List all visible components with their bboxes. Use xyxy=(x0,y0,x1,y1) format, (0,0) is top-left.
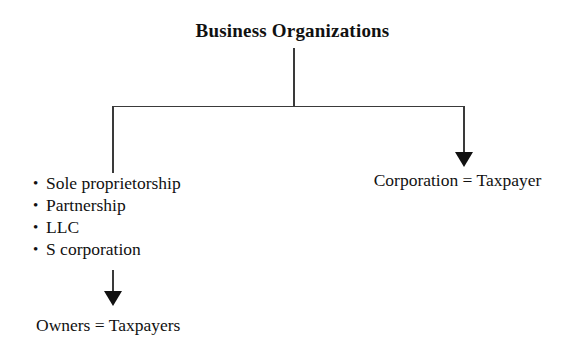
bullet-icon: • xyxy=(33,194,38,216)
list-item-label: Sole proprietorship xyxy=(46,173,181,193)
corporation-taxpayer-label: Corporation = Taxpayer xyxy=(330,170,585,191)
list-item: • LLC xyxy=(33,216,181,238)
list-item-label: LLC xyxy=(46,217,79,237)
owners-taxpayers-label: Owners = Taxpayers xyxy=(36,315,180,336)
diagram-canvas: Business Organizations • Sole proprietor… xyxy=(0,0,585,360)
diagram-title: Business Organizations xyxy=(0,20,585,42)
bullet-icon: • xyxy=(33,216,38,238)
list-item: • S corporation xyxy=(33,238,181,260)
list-item-label: Partnership xyxy=(46,195,126,215)
list-item: • Partnership xyxy=(33,194,181,216)
list-item-label: S corporation xyxy=(46,239,141,259)
owners-arrowhead xyxy=(104,291,122,306)
bullet-icon: • xyxy=(33,238,38,260)
bullet-icon: • xyxy=(33,172,38,194)
list-item: • Sole proprietorship xyxy=(33,172,181,194)
entity-type-list: • Sole proprietorship • Partnership • LL… xyxy=(33,172,181,260)
right-branch-arrowhead xyxy=(455,152,473,167)
